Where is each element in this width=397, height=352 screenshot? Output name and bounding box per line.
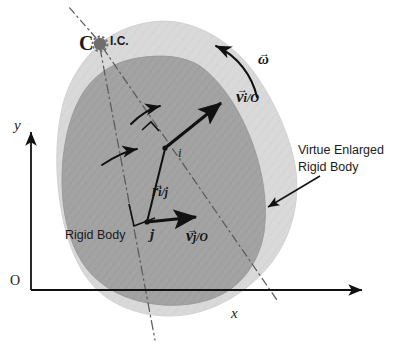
point-j-marker [144,219,149,224]
point-c-label: C [79,33,93,53]
origin-label: O [10,274,20,288]
velocity-j-label: →vj/O [186,228,208,244]
rigid-body-kinematics-figure: y x O C I.C. i j →ω →vi/O →vj/O →ri/j Ri… [0,0,397,352]
angular-velocity-label: →ω [258,52,269,67]
vector-arrow-v-i: → [237,84,248,95]
virtue-enlarged-body-caption: Virtue Enlarged Rigid Body [298,144,384,173]
figure-canvas [0,0,397,352]
vector-arrow-v-j: → [187,224,198,235]
vector-arrow-r: → [153,179,164,190]
velocity-i-label: →vi/O [236,88,259,105]
position-vector-label: →ri/j [152,183,168,199]
vector-arrow-omega: → [259,48,270,59]
point-i-marker [162,145,167,150]
instant-center-label: I.C. [110,35,129,47]
virtue-caption-line-2: Rigid Body [298,161,384,174]
point-j-label: j [150,227,154,242]
axis-label-y: y [14,118,21,133]
axis-label-x: x [231,306,238,321]
virtue-caption-line-1: Virtue Enlarged [298,144,384,157]
point-i-label: i [178,146,182,159]
rigid-body-caption: Rigid Body [65,229,125,242]
